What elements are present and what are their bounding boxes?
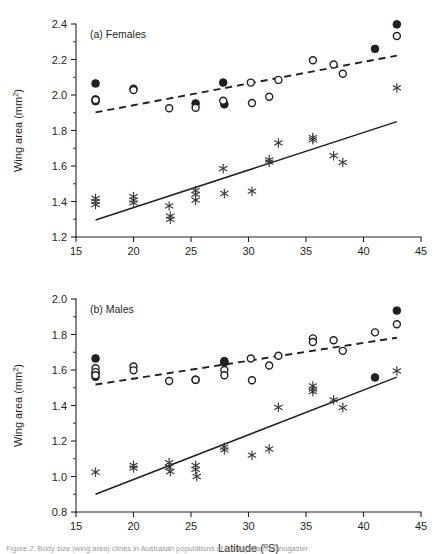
panel-label-a: (a) Females — [90, 28, 146, 40]
x-tick-label-a: 20 — [127, 245, 139, 257]
y-tick-label-a: 2.2 — [52, 54, 67, 66]
x-tick-label-b: 45 — [415, 520, 427, 532]
x-tick-label-a: 25 — [185, 245, 197, 257]
data-point-open — [266, 93, 273, 100]
data-point-open — [393, 33, 400, 40]
solid-regression-b — [96, 377, 397, 494]
data-point-open — [330, 61, 337, 68]
data-point-open — [330, 337, 337, 344]
data-point-open — [247, 79, 254, 86]
figure-container: 1.21.41.61.82.02.22.415202530354045(a) F… — [0, 0, 437, 554]
data-point-open — [192, 104, 199, 111]
data-point-open — [220, 97, 227, 104]
data-point-filled — [393, 307, 401, 315]
data-point-open — [266, 362, 273, 369]
data-point-open — [309, 338, 316, 345]
y-tick-label-b: 1.0 — [52, 471, 67, 483]
data-point-open — [130, 87, 137, 94]
x-tick-label-a: 45 — [415, 245, 427, 257]
y-axis-title-a: Wing area (mm2) — [11, 89, 25, 172]
y-axis-title-close: ) — [12, 364, 24, 368]
x-tick-label-b: 25 — [185, 520, 197, 532]
y-axis-title-close: ) — [12, 89, 24, 93]
y-axis-title-b: Wing area (mm2) — [11, 364, 25, 447]
y-axis-title-main: Wing area (mm — [12, 372, 24, 447]
data-point-open — [247, 355, 254, 362]
y-tick-label-a: 1.4 — [52, 196, 67, 208]
panel-a: 1.21.41.61.82.02.22.415202530354045(a) F… — [11, 18, 428, 257]
x-tick-label-a: 30 — [242, 245, 254, 257]
x-tick-label-a: 40 — [357, 245, 369, 257]
y-axis-title-main: Wing area (mm — [12, 97, 24, 172]
y-tick-label-b: 1.6 — [52, 364, 67, 376]
y-tick-label-a: 2.0 — [52, 89, 67, 101]
x-tick-label-b: 20 — [127, 520, 139, 532]
data-point-filled — [393, 20, 401, 28]
data-point-open — [92, 96, 99, 103]
data-point-open — [372, 329, 379, 336]
data-point-filled — [371, 374, 379, 382]
figure-caption: Figure 2. Body size (wing area) clines i… — [6, 544, 309, 553]
data-point-filled — [220, 358, 228, 366]
y-tick-label-a: 1.6 — [52, 160, 67, 172]
x-tick-label-a: 15 — [70, 245, 82, 257]
panel-b: 0.81.01.21.41.61.82.015202530354045(b) M… — [11, 293, 428, 532]
data-point-open — [192, 376, 199, 383]
y-tick-label-b: 1.8 — [52, 329, 67, 341]
data-point-open — [275, 352, 282, 359]
y-tick-label-b: 1.2 — [52, 435, 67, 447]
data-point-open — [166, 378, 173, 385]
solid-regression-a — [96, 122, 397, 220]
data-point-filled — [92, 80, 100, 88]
data-point-filled — [371, 45, 379, 53]
data-point-open — [130, 367, 137, 374]
x-tick-label-b: 15 — [70, 520, 82, 532]
y-tick-label-a: 1.8 — [52, 125, 67, 137]
x-tick-label-b: 40 — [357, 520, 369, 532]
data-point-open — [309, 57, 316, 64]
y-tick-label-b: 1.4 — [52, 400, 67, 412]
panel-label-b: (b) Males — [90, 303, 134, 315]
data-point-open — [221, 372, 228, 379]
data-point-open — [248, 99, 255, 106]
data-point-open — [275, 76, 282, 83]
y-tick-label-a: 2.4 — [52, 18, 67, 30]
y-tick-label-a: 1.2 — [52, 231, 67, 243]
x-tick-label-b: 30 — [242, 520, 254, 532]
data-point-filled — [92, 355, 100, 363]
dashed-regression-b — [96, 338, 397, 385]
y-tick-label-b: 0.8 — [52, 506, 67, 518]
data-point-filled — [219, 79, 227, 87]
data-point-open — [339, 70, 346, 77]
y-tick-label-b: 2.0 — [52, 293, 67, 305]
scatter-plot-figure: 1.21.41.61.82.02.22.415202530354045(a) F… — [0, 0, 437, 554]
data-point-open — [166, 105, 173, 112]
data-point-open — [248, 377, 255, 384]
dashed-regression-a — [96, 56, 397, 113]
x-tick-label-b: 35 — [300, 520, 312, 532]
data-point-open — [92, 372, 99, 379]
data-point-open — [393, 321, 400, 328]
x-tick-label-a: 35 — [300, 245, 312, 257]
data-point-open — [339, 347, 346, 354]
